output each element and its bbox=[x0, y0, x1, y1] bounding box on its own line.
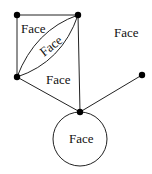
face-label-lens: Face bbox=[37, 32, 66, 59]
face-label-outer: Face bbox=[114, 25, 139, 40]
node-middle-left bbox=[14, 74, 20, 80]
face-label-top-left: Face bbox=[21, 21, 46, 36]
node-top-left bbox=[14, 12, 20, 18]
edge-bottom-center-right bbox=[80, 75, 142, 112]
face-label-middle: Face bbox=[46, 72, 71, 87]
node-top-right bbox=[75, 12, 81, 18]
node-bottom-center bbox=[77, 109, 83, 115]
node-right bbox=[139, 72, 145, 78]
edge-top-right-bottom-center bbox=[78, 15, 80, 112]
planar-graph-diagram: Face Face Face Face Face bbox=[0, 0, 152, 174]
face-label-loop: Face bbox=[69, 131, 94, 146]
